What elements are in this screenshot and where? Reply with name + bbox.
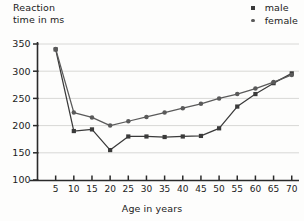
data-point: [181, 134, 185, 138]
data-point: [289, 73, 294, 78]
data-series-layer: [53, 47, 294, 153]
series-line-male: [56, 49, 292, 150]
data-point: [235, 104, 239, 108]
data-point: [90, 127, 94, 131]
y-tick-label: 150: [12, 147, 30, 158]
y-tick-label: 200: [12, 120, 30, 131]
data-point: [162, 110, 167, 115]
data-point: [90, 115, 95, 120]
data-point: [108, 123, 113, 128]
data-point: [126, 134, 130, 138]
data-point: [217, 126, 221, 130]
data-point: [217, 96, 222, 101]
x-tick-label: 10: [68, 184, 80, 194]
data-point: [144, 134, 148, 138]
plot-area: 100150200250300350 510152025303540455055…: [0, 0, 304, 221]
x-tick-label: 70: [286, 184, 298, 194]
x-tick-label: 60: [250, 184, 262, 194]
x-tick-label: 25: [123, 184, 134, 194]
data-point: [271, 80, 276, 85]
x-axis-title: Age in years: [0, 203, 304, 214]
data-point: [53, 47, 58, 52]
series-female: [53, 47, 294, 128]
data-point: [72, 110, 77, 115]
data-point: [235, 92, 240, 97]
data-point: [253, 92, 257, 96]
data-point: [108, 148, 112, 152]
x-tick-label: 65: [268, 184, 279, 194]
x-tick-label: 30: [141, 184, 153, 194]
x-tick-label: 20: [104, 184, 116, 194]
chart-figure: Reaction time in ms male female 10015020…: [0, 0, 304, 221]
x-tick-label: 50: [213, 184, 225, 194]
data-point: [253, 86, 257, 91]
y-tick-label: 350: [12, 38, 30, 49]
data-point: [163, 135, 167, 139]
data-point: [72, 129, 76, 133]
y-tick-labels: 100150200250300350: [12, 38, 30, 185]
data-point: [181, 106, 186, 111]
x-tick-label: 40: [177, 184, 189, 194]
x-tick-label: 15: [86, 184, 97, 194]
x-tick-label: 5: [53, 184, 59, 194]
x-tick-label: 45: [195, 184, 206, 194]
data-point: [199, 134, 203, 138]
data-point: [144, 115, 149, 120]
x-tick-labels: 510152025303540455055606570: [53, 184, 298, 194]
x-tick-label: 35: [159, 184, 170, 194]
x-tick-label: 55: [232, 184, 243, 194]
y-tick-label: 300: [12, 66, 30, 77]
data-point: [126, 119, 131, 124]
y-tick-label: 250: [12, 93, 30, 104]
series-male: [54, 47, 294, 152]
y-tick-label: 100: [12, 174, 30, 185]
data-point: [199, 102, 204, 107]
